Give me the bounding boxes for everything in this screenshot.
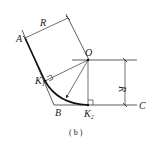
fillet-arc bbox=[45, 81, 88, 105]
right-angle-k1 bbox=[47, 75, 53, 81]
label-b: B bbox=[55, 107, 61, 118]
tick-top-right bbox=[66, 16, 70, 20]
caption: ( b ) bbox=[69, 128, 83, 137]
dimension-line-top bbox=[25, 18, 68, 38]
label-k2: K2 bbox=[83, 108, 94, 120]
label-r-right: R bbox=[117, 85, 128, 92]
diagram-canvas: A R O K1 B K2 C R ( b ) bbox=[0, 0, 154, 146]
fillet-construction-diagram: A R O K1 B K2 C R ( b ) bbox=[0, 0, 154, 146]
point-k2 bbox=[87, 104, 89, 106]
label-c: C bbox=[139, 100, 146, 111]
label-o: O bbox=[85, 47, 92, 58]
label-a: A bbox=[15, 33, 23, 44]
label-r-top: R bbox=[39, 17, 46, 28]
point-o bbox=[87, 59, 89, 61]
